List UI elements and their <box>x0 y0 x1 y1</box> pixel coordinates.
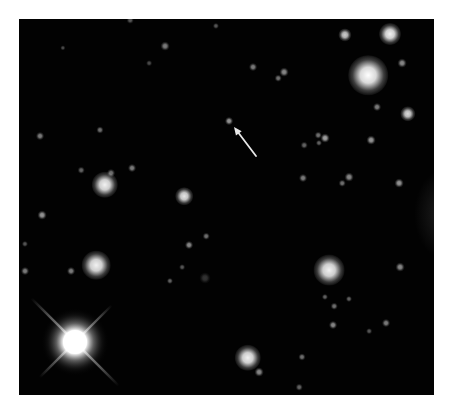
star <box>298 353 305 360</box>
star <box>96 126 103 133</box>
star <box>60 45 65 50</box>
star <box>179 264 185 270</box>
star <box>315 132 322 139</box>
star <box>92 172 118 198</box>
star <box>400 106 415 121</box>
bright-star <box>30 297 119 386</box>
star <box>38 211 47 220</box>
edge-glow <box>414 169 434 259</box>
page <box>0 0 453 415</box>
star <box>161 42 170 51</box>
star <box>339 180 346 187</box>
star <box>321 134 330 143</box>
star <box>398 59 407 68</box>
star <box>82 251 111 280</box>
star <box>299 174 307 182</box>
star <box>78 167 85 174</box>
star <box>107 169 115 177</box>
star <box>345 173 354 182</box>
star <box>346 296 352 302</box>
star <box>322 294 328 300</box>
star <box>36 132 44 140</box>
diffraction-spike <box>39 304 113 378</box>
star <box>338 28 351 41</box>
starfield-image <box>19 19 434 395</box>
star <box>167 278 173 284</box>
diffraction-spike <box>30 297 119 386</box>
star <box>213 23 219 29</box>
star <box>373 103 381 111</box>
star <box>185 241 193 249</box>
star <box>225 117 233 125</box>
star <box>249 63 257 71</box>
star <box>379 23 401 45</box>
star <box>314 255 345 286</box>
star <box>396 263 405 272</box>
star <box>128 164 136 172</box>
star <box>22 241 28 247</box>
star <box>146 60 152 66</box>
star <box>331 303 338 310</box>
arrow-icon <box>234 127 256 156</box>
star <box>203 233 210 240</box>
star <box>255 368 264 377</box>
star <box>127 19 134 23</box>
star <box>301 142 308 149</box>
star <box>366 328 372 334</box>
star <box>348 55 388 95</box>
star <box>67 267 75 275</box>
star <box>367 136 376 145</box>
star <box>200 273 211 284</box>
star <box>329 321 337 329</box>
star <box>175 187 193 205</box>
star <box>395 179 404 188</box>
star <box>275 75 282 82</box>
star <box>316 140 322 146</box>
star <box>21 267 29 275</box>
star <box>296 384 303 391</box>
star <box>382 319 390 327</box>
